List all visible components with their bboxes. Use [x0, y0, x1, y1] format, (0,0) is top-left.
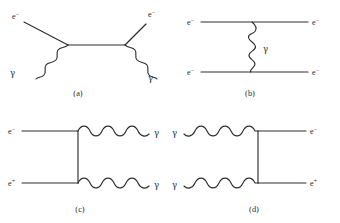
panel-d-photon-in-top-wave [184, 126, 258, 136]
panel-a-electron-in-label: e− [12, 11, 20, 21]
panel-d-caption: (d) [249, 205, 259, 214]
panel-d-electron-out-label: e− [310, 126, 318, 136]
panel-b-photon-exchange-label: γ [263, 44, 268, 54]
panel-c-photon-out-top-label: γ [154, 128, 159, 138]
panel-a-photon-out-label: γ [148, 73, 153, 83]
panel-a-electron-out-line [125, 24, 146, 45]
feynman-diagram-canvas: e− e− γ γ (a) e− e− e− e− γ (b) [0, 0, 340, 223]
panel-b-electron-in-bottom-label: e− [187, 67, 195, 77]
panel-c-electron-in-label: e− [8, 126, 16, 136]
panel-a-electron-out-label: e− [148, 9, 156, 19]
panel-d-photon-in-bottom-label: γ [172, 180, 177, 190]
panel-d-photon-in-top-label: γ [172, 128, 177, 138]
panel-d-positron-out-label: e+ [310, 178, 318, 188]
panel-d-photon-in-bottom-wave [184, 178, 258, 188]
panel-c: e− e+ γ γ (c) [8, 126, 159, 214]
panel-a-photon-in-wave [36, 45, 68, 79]
feynman-figure: e− e− γ γ (a) e− e− e− e− γ (b) [0, 0, 340, 223]
panel-c-photon-out-bottom-label: γ [154, 180, 159, 190]
panel-a-photon-in-label: γ [10, 68, 15, 78]
panel-a-electron-in-line [24, 22, 68, 45]
panel-c-caption: (c) [75, 205, 85, 214]
panel-b-caption: (b) [245, 89, 255, 98]
panel-a-caption: (a) [73, 89, 83, 98]
panel-c-positron-in-label: e+ [8, 178, 16, 188]
panel-c-photon-out-bottom-wave [78, 178, 149, 188]
panel-b-electron-in-top-label: e− [187, 17, 195, 27]
panel-b-electron-out-top-label: e− [312, 17, 320, 27]
panel-b-electron-out-bottom-label: e− [312, 67, 320, 77]
panel-b-photon-exchange-wave [248, 22, 256, 72]
panel-c-photon-out-top-wave [78, 126, 149, 136]
panel-a: e− e− γ γ (a) [10, 9, 157, 98]
panel-b: e− e− e− e− γ (b) [187, 17, 320, 98]
panel-d: γ γ e− e+ (d) [172, 126, 318, 214]
